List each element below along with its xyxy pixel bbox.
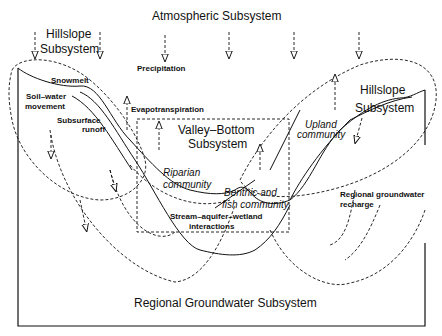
subsurface-label-2: runoff	[82, 126, 105, 134]
benthic-label-1: Benthic and	[224, 188, 277, 198]
stream-aquifer-label-2: interactions	[189, 223, 234, 231]
soil-water-label-1: Soil–water	[26, 93, 66, 101]
benthic-label-2: fish community	[222, 200, 289, 210]
snowmelt-label: Snowmelt	[51, 77, 89, 85]
hillslope-right-label-1: Hillslope	[360, 84, 405, 96]
soil-water-label-2: movement	[25, 103, 65, 111]
valley-bottom-label-1: Valley–Bottom	[178, 124, 254, 136]
regional-groundwater-title: Regional Groundwater Subsystem	[134, 297, 317, 309]
stream-aquifer-label-1: Stream–aquifer–wetland	[170, 213, 262, 221]
valley-bottom-label-2: Subsystem	[188, 138, 247, 150]
riparian-label-1: Riparian	[163, 168, 200, 178]
recharge-label-2: recharge	[340, 201, 374, 209]
atmospheric-subsystem-title: Atmospheric Subsystem	[152, 10, 281, 22]
evapotranspiration-label: Evapotranspiration	[131, 106, 204, 114]
right-hillslope-ellipse	[240, 59, 436, 196]
subsurface-label-1: Subsurface	[57, 117, 101, 125]
upland-label-2: community	[297, 130, 345, 140]
precipitation-label: Precipitation	[137, 65, 185, 73]
hillslope-right-label-2: Subsystem	[355, 102, 414, 114]
recharge-label-1: Regional groundwater	[340, 191, 424, 199]
hillslope-left-label-1: Hillslope	[46, 28, 91, 40]
riparian-label-2: community	[163, 180, 211, 190]
hillslope-left-label-2: Subsystem	[40, 43, 99, 55]
